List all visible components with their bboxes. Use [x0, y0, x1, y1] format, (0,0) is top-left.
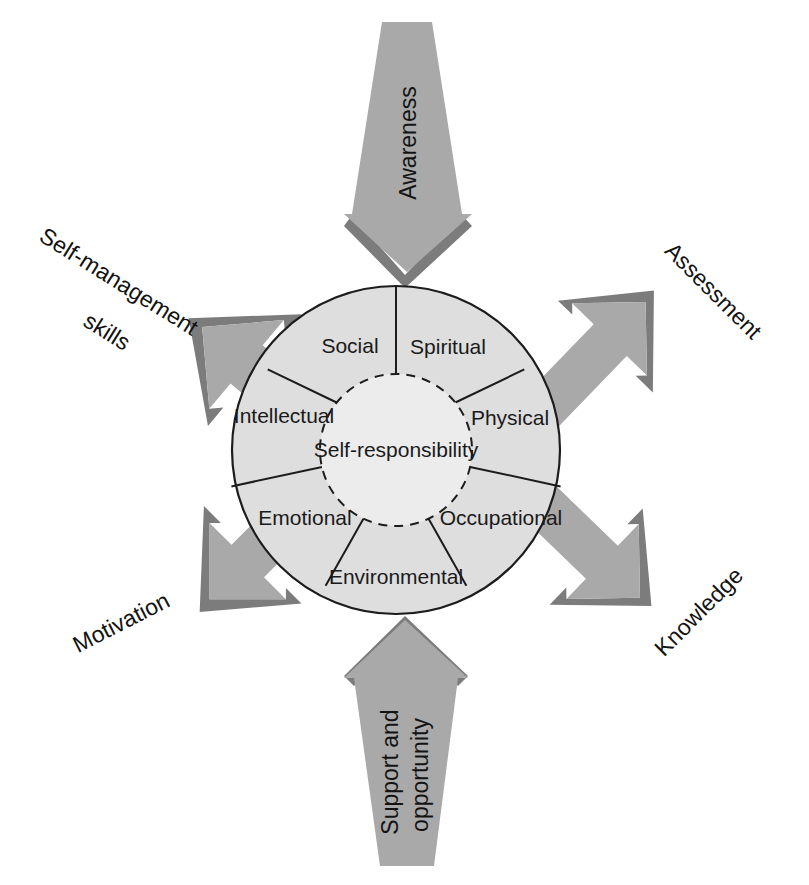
segment-intellectual-label: Intellectual — [234, 404, 334, 427]
arrow-awareness: Awareness — [344, 22, 472, 288]
segment-social-label: Social — [321, 334, 378, 357]
arrow-support-label-line1: Support and — [377, 709, 403, 834]
segment-physical-label: Physical — [471, 406, 549, 429]
arrow-assessment-label: Assessment — [660, 237, 767, 344]
arrow-motivation-label: Motivation — [69, 587, 174, 658]
diagram-canvas: Awareness Assessment Knowledge Support a… — [0, 0, 809, 885]
wellness-wheel: Self-responsibility Spiritual Physical O… — [231, 286, 562, 614]
arrow-support-label-line2: opportunity — [407, 718, 433, 832]
wellness-wheel-diagram: Awareness Assessment Knowledge Support a… — [0, 0, 809, 885]
arrow-support-and-opportunity: Support and opportunity — [344, 616, 468, 866]
arrow-support-body — [344, 620, 468, 866]
segment-occupational-label: Occupational — [440, 506, 563, 529]
segment-environmental-label: Environmental — [329, 565, 463, 588]
arrow-selfmgmt-label-line2: skills — [79, 307, 135, 355]
core-label: Self-responsibility — [314, 438, 479, 461]
arrow-knowledge-label: Knowledge — [649, 562, 748, 661]
segment-spiritual-label: Spiritual — [410, 335, 486, 358]
arrow-awareness-label: Awareness — [395, 86, 421, 199]
segment-emotional-label: Emotional — [258, 506, 351, 529]
